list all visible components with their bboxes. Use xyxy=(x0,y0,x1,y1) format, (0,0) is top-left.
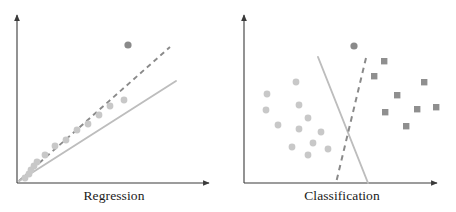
data-point xyxy=(42,152,49,159)
data-point xyxy=(63,137,70,144)
data-point xyxy=(381,58,387,64)
data-point xyxy=(371,73,377,79)
data-point xyxy=(414,106,420,112)
data-point xyxy=(263,107,270,114)
data-point xyxy=(433,104,439,110)
data-point xyxy=(305,152,312,159)
regression-scatter-outlier xyxy=(124,41,131,48)
caption-regression: Regression xyxy=(0,188,228,204)
decision-boundary-solid xyxy=(318,57,368,183)
data-point xyxy=(382,109,388,115)
data-point xyxy=(305,115,312,122)
data-point xyxy=(52,143,59,150)
data-point xyxy=(296,102,303,109)
regression-line-solid xyxy=(19,81,176,181)
data-point xyxy=(350,42,357,49)
classification-plot xyxy=(228,0,456,212)
panel-regression xyxy=(0,0,228,212)
classification-scatter-class-b xyxy=(371,58,439,129)
regression-line-dashed xyxy=(19,47,170,181)
data-point xyxy=(74,127,81,134)
regression-plot xyxy=(0,0,228,212)
classification-scatter-class-a xyxy=(263,79,332,159)
data-point xyxy=(325,146,332,153)
data-point xyxy=(121,97,128,104)
figure-container: Regression Classification xyxy=(0,0,456,212)
panel-classification xyxy=(228,0,456,212)
caption-classification: Classification xyxy=(228,188,456,204)
data-point xyxy=(264,91,271,98)
data-point xyxy=(275,122,282,129)
data-point xyxy=(310,140,317,147)
data-point xyxy=(96,112,103,119)
data-point xyxy=(107,103,114,110)
outlier-point xyxy=(124,41,131,48)
data-point xyxy=(34,159,41,166)
data-point xyxy=(293,79,300,86)
data-point xyxy=(289,144,296,151)
data-point xyxy=(394,92,400,98)
data-point xyxy=(318,129,325,136)
data-point xyxy=(421,79,427,85)
data-point xyxy=(85,121,92,128)
data-point xyxy=(403,123,409,129)
classification-misclassified-point xyxy=(350,42,357,49)
data-point xyxy=(296,126,303,133)
